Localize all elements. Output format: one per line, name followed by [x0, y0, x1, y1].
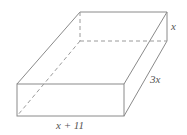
top-face-edges — [17, 12, 167, 84]
front-face — [17, 84, 124, 116]
width-label: x + 11 — [55, 119, 84, 131]
height-label: x — [170, 20, 176, 32]
box-diagram: x 3x x + 11 — [0, 0, 187, 135]
depth-label: 3x — [149, 73, 161, 85]
hidden-depth-edge — [17, 41, 80, 116]
right-face-edges — [124, 12, 167, 116]
